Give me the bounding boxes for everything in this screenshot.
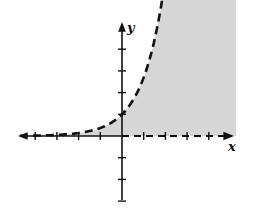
y-axis-label: y (126, 20, 136, 35)
x-axis-label: x (227, 139, 236, 154)
graph: y x (0, 0, 254, 224)
